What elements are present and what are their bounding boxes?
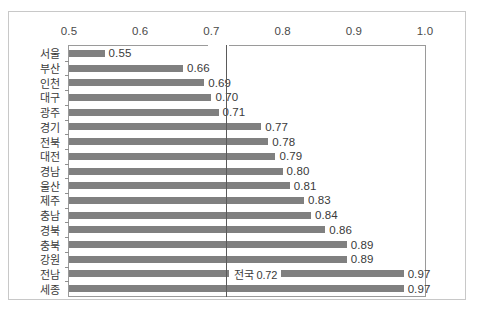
category-label-5: 경기 [40,119,60,135]
x-axis: 0.50.60.70.80.91.0 [9,25,465,41]
category-label-8: 경남 [40,163,60,179]
plot-area: 0.550.660.690.700.710.770.780.790.800.81… [68,45,426,297]
y-axis-tick-7 [65,164,69,165]
bar-value-label-14: 0.89 [351,253,374,265]
reference-line-national-average [226,45,227,297]
bar-16[interactable] [69,285,404,292]
category-label-11: 충남 [40,207,60,223]
y-axis-tick-11 [65,222,69,223]
x-tick-label: 1.0 [417,25,433,37]
bar-value-label-13: 0.89 [351,239,374,251]
bar-value-label-1: 0.66 [187,62,210,74]
bar-8[interactable] [69,168,283,175]
bar-13[interactable] [69,241,347,248]
y-axis-tick-15 [65,281,69,282]
bar-2[interactable] [69,79,204,86]
y-axis-tick-3 [65,105,69,106]
y-axis-tick-6 [65,149,69,150]
bar-value-label-8: 0.80 [287,165,310,177]
bar-14[interactable] [69,256,347,263]
chart-frame: 0.50.60.70.80.91.0 서울부산인천대구광주경기전북대전경남울산제… [8,11,466,300]
y-axis-tick-5 [65,134,69,135]
bar-7[interactable] [69,153,275,160]
y-axis-tick-4 [65,120,69,121]
x-tick-label: 0.9 [346,25,362,37]
bar-value-label-15: 0.97 [408,268,431,280]
bar-4[interactable] [69,109,219,116]
bar-value-label-16: 0.97 [408,283,431,295]
x-tick-label: 0.8 [274,25,290,37]
bar-value-label-7: 0.79 [279,150,302,162]
category-label-12: 경북 [40,222,60,238]
bar-3[interactable] [69,94,211,101]
bar-10[interactable] [69,197,304,204]
bar-value-label-9: 0.81 [294,180,317,192]
category-label-10: 제주 [40,192,60,208]
bar-value-label-12: 0.86 [329,224,352,236]
bar-6[interactable] [69,138,268,145]
y-axis-tick-8 [65,178,69,179]
x-tick-label: 0.7 [203,25,219,37]
y-axis-tick-9 [65,193,69,194]
y-axis-tick-10 [65,208,69,209]
bar-value-label-6: 0.78 [272,136,295,148]
category-label-1: 부산 [40,60,60,76]
bar-value-label-3: 0.70 [215,91,238,103]
category-label-14: 강원 [40,251,60,267]
bar-value-label-5: 0.77 [265,121,288,133]
reference-line-label: 전국 0.72 [229,265,282,283]
x-tick-label: 0.6 [132,25,148,37]
y-axis-tick-0 [65,61,69,62]
bar-12[interactable] [69,226,325,233]
bar-0[interactable] [69,50,105,57]
bar-value-label-11: 0.84 [315,209,338,221]
x-tick-label: 0.5 [61,25,77,37]
y-axis-tick-2 [65,90,69,91]
bar-value-label-0: 0.55 [109,47,132,59]
category-label-2: 인천 [40,75,60,91]
bar-value-label-10: 0.83 [308,194,331,206]
bar-11[interactable] [69,212,311,219]
bar-value-label-2: 0.69 [208,77,231,89]
y-axis-tick-1 [65,75,69,76]
category-label-6: 전북 [40,134,60,150]
category-label-3: 대구 [40,89,60,105]
y-axis-tick-12 [65,237,69,238]
category-label-4: 광주 [40,104,60,120]
category-label-7: 대전 [40,148,60,164]
y-axis-tick-13 [65,252,69,253]
bar-1[interactable] [69,65,183,72]
category-label-13: 충북 [40,237,60,253]
bar-5[interactable] [69,123,261,130]
y-axis-category-labels: 서울부산인천대구광주경기전북대전경남울산제주충남경북충북강원전남세종 [9,45,67,297]
category-label-16: 세종 [40,281,60,297]
bar-9[interactable] [69,182,290,189]
category-label-0: 서울 [40,45,60,61]
category-label-15: 전남 [40,266,60,282]
y-axis-tick-14 [65,267,69,268]
category-label-9: 울산 [40,178,60,194]
